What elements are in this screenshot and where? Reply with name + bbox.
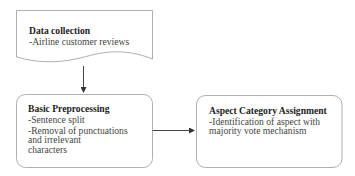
- data-collection-title: Data collection: [29, 26, 129, 36]
- data-collection-line: -Airline customer reviews: [29, 37, 129, 47]
- aspect-category-assignment-line: majority vote mechanism: [209, 126, 327, 136]
- basic-preprocessing-title: Basic Preprocessing: [28, 104, 128, 114]
- basic-preprocessing-node-text: Basic Preprocessing -Sentence split -Rem…: [28, 104, 128, 154]
- data-collection-node-text: Data collection -Airline customer review…: [29, 26, 129, 46]
- basic-preprocessing-line: -Sentence split: [28, 115, 128, 125]
- basic-preprocessing-line: characters: [28, 145, 128, 155]
- aspect-category-assignment-title: Aspect Category Assignment: [209, 106, 327, 116]
- aspect-category-assignment-node-text: Aspect Category Assignment -Identificati…: [209, 106, 327, 136]
